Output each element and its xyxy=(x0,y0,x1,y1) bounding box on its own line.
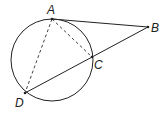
chord-ad-dashed xyxy=(25,19,52,93)
point-a xyxy=(51,18,54,21)
label-c: C xyxy=(94,58,103,72)
tangent-segment-ab xyxy=(52,19,148,27)
label-d: D xyxy=(15,96,24,110)
secant-segment-bd xyxy=(25,27,148,93)
geometry-diagram: A B C D xyxy=(0,0,167,114)
circle xyxy=(11,19,93,101)
point-c xyxy=(91,56,94,59)
point-b xyxy=(147,26,150,29)
point-d xyxy=(24,92,27,95)
label-b: B xyxy=(151,21,159,35)
label-a: A xyxy=(46,3,55,17)
